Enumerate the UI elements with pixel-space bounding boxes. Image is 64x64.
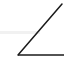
angle-tool-button[interactable]: Angle bbox=[0, 0, 64, 64]
angle-icon bbox=[0, 0, 64, 64]
